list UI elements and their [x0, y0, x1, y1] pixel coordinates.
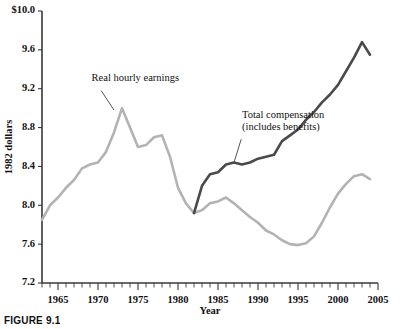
- y-tick-label: $10.0: [11, 4, 35, 15]
- y-tick-label: 9.2: [22, 82, 35, 93]
- x-tick-label: 1970: [88, 294, 109, 305]
- x-tick-label: 2005: [368, 294, 389, 305]
- x-tick-label: 1995: [288, 294, 309, 305]
- x-tick-label: 2000: [328, 294, 349, 305]
- total-compensation-label: Total compensation(includes benefits): [242, 109, 325, 134]
- real-hourly-earnings-label: Real hourly earnings: [92, 72, 179, 83]
- annotation-leader-line: [234, 139, 241, 162]
- x-tick-label: 1980: [168, 294, 189, 305]
- series-real-hourly-earnings: [42, 108, 370, 245]
- line-chart: 7.27.68.08.48.89.29.6$10.0 1965197019751…: [0, 0, 402, 329]
- x-axis-title: Year: [200, 305, 221, 316]
- y-tick-label: 7.6: [22, 238, 35, 249]
- annotation-leader-line: [101, 91, 114, 110]
- y-axis-tick-labels: 7.27.68.08.48.89.29.6$10.0: [11, 4, 35, 287]
- axis-frame: [42, 11, 378, 283]
- figure-caption: FIGURE 9.1: [4, 315, 60, 329]
- x-tick-label: 1965: [48, 294, 69, 305]
- x-tick-label: 1985: [208, 294, 229, 305]
- chart-axes: [42, 11, 378, 283]
- y-tick-label: 8.0: [22, 199, 35, 210]
- x-tick-label: 1975: [128, 294, 149, 305]
- y-tick-label: 8.8: [22, 121, 35, 132]
- x-axis-ticks: [42, 283, 378, 290]
- x-axis-tick-labels: 196519701975198019851990199520002005: [48, 294, 389, 305]
- y-tick-label: 9.6: [22, 43, 35, 54]
- y-tick-label: 8.4: [22, 160, 36, 171]
- x-tick-label: 1990: [248, 294, 269, 305]
- y-axis-title: 1982 dollars: [3, 120, 14, 175]
- figure-container: 7.27.68.08.48.89.29.6$10.0 1965197019751…: [0, 0, 402, 329]
- y-tick-label: 7.2: [22, 276, 35, 287]
